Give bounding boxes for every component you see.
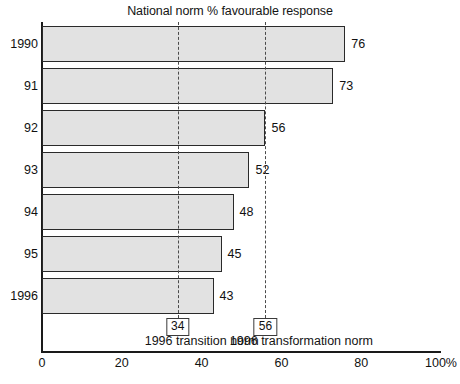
plot-area: 76199073915692529348944595431996 341996 … [0, 0, 460, 384]
bar-row: 76 [42, 26, 345, 62]
bar-value-label: 73 [339, 79, 353, 93]
x-tick-label: 0 [39, 356, 46, 370]
bar-value-label: 45 [228, 247, 242, 261]
bar-row: 73 [42, 68, 333, 104]
category-label: 91 [24, 79, 38, 93]
x-tick-label: 80 [354, 356, 368, 370]
bar [42, 194, 234, 230]
x-tick-label: 60 [274, 356, 288, 370]
x-tick-label: 100% [425, 356, 457, 370]
category-label-slot: 94 [0, 194, 38, 230]
bar [42, 68, 333, 104]
category-label-slot: 1990 [0, 26, 38, 62]
bar [42, 26, 345, 62]
x-axis-line [41, 351, 441, 353]
x-tick-label: 40 [195, 356, 209, 370]
reference-line [265, 22, 266, 318]
bar-value-label: 56 [271, 121, 285, 135]
category-label: 93 [24, 163, 38, 177]
bar-row: 43 [42, 278, 214, 314]
category-label-slot: 1996 [0, 278, 38, 314]
bar [42, 110, 265, 146]
category-label: 1990 [10, 37, 38, 51]
category-label-slot: 91 [0, 68, 38, 104]
category-label-slot: 92 [0, 110, 38, 146]
bar-row: 48 [42, 194, 234, 230]
category-label: 95 [24, 247, 38, 261]
reference-line [178, 22, 179, 318]
bar-value-label: 76 [351, 37, 365, 51]
category-label: 1996 [10, 289, 38, 303]
bar-value-label: 43 [220, 289, 234, 303]
bar-chart: National norm % favourable response 7619… [0, 0, 460, 384]
bar-value-label: 52 [255, 163, 269, 177]
reference-caption: 1996 transformation norm [230, 334, 373, 348]
category-label: 92 [24, 121, 38, 135]
bar-row: 45 [42, 236, 222, 272]
bar [42, 236, 222, 272]
bar-row: 56 [42, 110, 265, 146]
x-tick-label: 20 [115, 356, 129, 370]
bar-value-label: 48 [240, 205, 254, 219]
category-label: 94 [24, 205, 38, 219]
category-label-slot: 95 [0, 236, 38, 272]
bar-row: 52 [42, 152, 249, 188]
bar [42, 278, 214, 314]
bar [42, 152, 249, 188]
category-label-slot: 93 [0, 152, 38, 188]
